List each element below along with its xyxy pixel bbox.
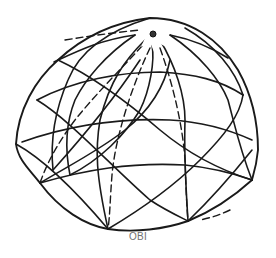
figure-caption: OBI [0,231,276,242]
diag-7 [188,150,252,221]
diag-1 [16,144,108,229]
dome-diagram [0,0,276,258]
meridian-d [160,40,188,221]
diag-4 [108,95,243,229]
diag-6 [70,45,153,175]
hidden-edge-5 [200,210,230,220]
ring-2 [37,72,243,100]
meridian-f [185,28,243,95]
diag-2 [37,100,188,221]
apex-hub [150,31,156,37]
ring-3 [22,120,252,142]
